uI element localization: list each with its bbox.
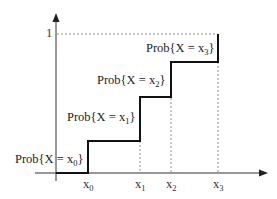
- y-axis-arrow-icon: [53, 13, 60, 22]
- x-axis-arrow-icon: [259, 170, 268, 177]
- x-tick-x2: x2: [166, 178, 177, 193]
- x-tick-x1: x1: [135, 178, 146, 193]
- prob-label-x0: Prob{X = x0}: [15, 153, 83, 168]
- prob-label-x2: Prob{X = x2}: [97, 74, 165, 89]
- x-tick-x3: x3: [213, 178, 224, 193]
- y-tick-1: 1: [46, 27, 52, 40]
- prob-label-x1: Prob{X = x1}: [67, 111, 135, 126]
- prob-label-x3: Prob{X = x3}: [146, 42, 214, 57]
- x-tick-x0: x0: [83, 178, 94, 193]
- chart-canvas: [0, 0, 277, 199]
